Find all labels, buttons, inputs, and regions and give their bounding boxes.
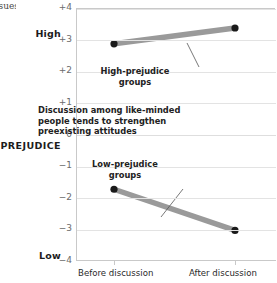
- y-tick-label: −2: [50, 192, 72, 202]
- center-annotation: Discussion among like-minded people tend…: [38, 105, 188, 137]
- series-line-high-prejudice: [114, 28, 235, 44]
- x-tick-mark: [114, 261, 115, 265]
- gridline: [77, 9, 276, 10]
- data-point-marker: [110, 40, 117, 47]
- gutter-fragment: :: [0, 63, 16, 76]
- leader-line-high-prejudice: [187, 43, 199, 67]
- callout-low-line2: groups: [82, 170, 168, 181]
- series-line-low-prejudice: [114, 189, 235, 230]
- x-tick-label-before: Before discussion: [78, 268, 153, 278]
- callout-high-prejudice: High-prejudice groups: [92, 66, 178, 87]
- gutter-fragment: 1: [0, 13, 16, 26]
- data-point-marker: [231, 24, 238, 31]
- gutter-fragment: s: [0, 38, 16, 51]
- figure-root: ssues. 1 - s 1 : - - s - - T s High PREJ…: [0, 0, 277, 283]
- x-tick-mark: [235, 261, 236, 265]
- gutter-fragment: 1: [0, 50, 16, 63]
- y-axis-ticks: +4+3+2+10−1−2−3−4: [48, 0, 72, 283]
- gutter-fragment: s: [0, 151, 16, 164]
- gutter-fragment: s: [0, 101, 16, 114]
- gridline: [77, 198, 276, 199]
- y-tick-label: +3: [50, 34, 72, 44]
- gutter-fragment: ssues.: [0, 0, 16, 13]
- gutter-fragment: -: [0, 126, 16, 139]
- x-tick-label-after: After discussion: [189, 268, 257, 278]
- callout-low-prejudice: Low-prejudice groups: [82, 159, 168, 180]
- gutter-fragment: -: [0, 88, 16, 101]
- callout-high-line2: groups: [92, 77, 178, 88]
- callout-high-line1: High-prejudice: [101, 66, 170, 76]
- y-tick-label: +4: [50, 2, 72, 12]
- y-tick-label: −3: [50, 223, 72, 233]
- y-tick-label: −4: [50, 255, 72, 265]
- gridline: [77, 40, 276, 41]
- callout-low-line1: Low-prejudice: [92, 159, 158, 169]
- gutter-fragment: -: [0, 113, 16, 126]
- y-tick-label: −1: [50, 160, 72, 170]
- y-tick-label: +2: [50, 65, 72, 75]
- gutter-fragment: -: [0, 76, 16, 89]
- gridline: [77, 230, 276, 231]
- data-point-marker: [110, 186, 117, 193]
